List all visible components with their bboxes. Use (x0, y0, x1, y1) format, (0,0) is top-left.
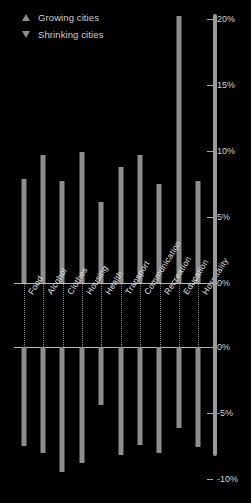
ytick-top-15: 15% (207, 80, 235, 90)
bar-slot (53, 347, 72, 489)
bar-slot (169, 347, 188, 489)
bar-slot (189, 347, 208, 489)
bar-housing[interactable] (79, 152, 84, 283)
ytick-top-0: 0% (207, 278, 230, 288)
bar-slot (150, 16, 169, 283)
bar-slot (130, 347, 149, 489)
ytick-label: -5% (217, 408, 233, 418)
gridline (63, 284, 64, 347)
scrollbar-thumb[interactable] (213, 14, 217, 456)
bar-health[interactable] (99, 347, 104, 405)
bar-slot (72, 347, 91, 489)
ytick-label: 0% (217, 342, 230, 352)
bar-slot (92, 16, 111, 283)
bar-housing[interactable] (79, 347, 84, 463)
bar-slot (14, 347, 33, 489)
bar-education[interactable] (176, 347, 181, 428)
bar-slot (150, 347, 169, 489)
ytick-label: 5% (217, 212, 230, 222)
bar-communication[interactable] (138, 347, 143, 445)
bar-hospitality[interactable] (196, 347, 201, 447)
bar-food[interactable] (21, 179, 26, 283)
chart-container: Growing cities Shrinking cities FoodAlco… (0, 0, 251, 503)
bar-slot (53, 16, 72, 283)
bar-slot (72, 16, 91, 283)
bar-slot (92, 347, 111, 489)
ytick-label: 10% (217, 146, 235, 156)
bar-slot (14, 16, 33, 283)
gridline (24, 284, 25, 347)
ytick-label: -10% (217, 474, 238, 484)
bar-alcohol[interactable] (41, 155, 46, 283)
gridline (179, 284, 180, 347)
bar-slot (111, 347, 130, 489)
bar-food[interactable] (21, 347, 26, 446)
ytick-top-5: 5% (207, 212, 230, 222)
gridline (82, 284, 83, 347)
bar-transport[interactable] (118, 347, 123, 455)
bar-group-shrinking-cities (14, 347, 208, 489)
bar-transport[interactable] (118, 167, 123, 283)
bar-slot (33, 16, 52, 283)
scrollbar-track[interactable] (213, 14, 217, 503)
bar-alcohol[interactable] (41, 347, 46, 453)
bar-recreation[interactable] (157, 347, 162, 453)
gridline (140, 284, 141, 347)
bar-slot (33, 347, 52, 489)
plot-panel-shrinking-cities (14, 347, 208, 489)
gridline (43, 284, 44, 347)
ytick-label: 20% (217, 14, 235, 24)
ytick-bottom-0: 0% (207, 342, 230, 352)
gridline (121, 284, 122, 347)
category-label-band: FoodAlcoholClothesHousingHealthTransport… (14, 284, 208, 347)
ytick-top-20: 20% (207, 14, 235, 24)
gridline (101, 284, 102, 347)
ytick-top-10: 10% (207, 146, 235, 156)
gridline (198, 284, 199, 347)
ytick-bottom--5: -5% (207, 408, 233, 418)
bar-slot (111, 16, 130, 283)
ytick-label: 0% (217, 278, 230, 288)
bar-slot (130, 16, 149, 283)
bar-clothes[interactable] (60, 347, 65, 472)
bar-slot (189, 16, 208, 283)
gridline (160, 284, 161, 347)
ytick-label: 15% (217, 80, 235, 90)
ytick-bottom--10: -10% (207, 474, 238, 484)
